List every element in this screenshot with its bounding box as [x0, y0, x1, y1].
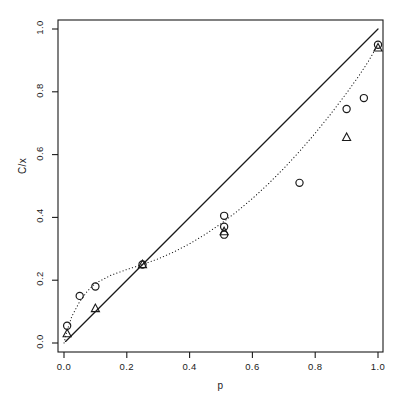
x-axis-title: p	[218, 380, 224, 391]
data-point-circles	[343, 105, 350, 112]
curve-layer	[64, 29, 378, 343]
data-point-triangles	[343, 133, 351, 141]
y-tick-label: 1.0	[34, 17, 45, 39]
y-tick-label: 0.6	[34, 142, 45, 164]
data-point-circles	[221, 212, 228, 219]
fitted-curve	[64, 45, 378, 343]
x-tick-label: 0.0	[57, 361, 71, 372]
y-tick-label: 0.2	[34, 268, 45, 290]
chart-figure: 0.00.20.40.60.81.0 0.00.20.40.60.81.0 p …	[0, 0, 408, 412]
identity-line	[66, 29, 378, 341]
plot-canvas	[0, 0, 408, 412]
data-point-triangles	[63, 329, 71, 337]
data-point-layer	[63, 41, 382, 337]
y-tick-label: 0.8	[34, 79, 45, 101]
x-tick-label: 0.6	[245, 361, 259, 372]
x-tick-label: 1.0	[371, 361, 385, 372]
data-point-circles	[92, 283, 99, 290]
y-tick-label: 0.4	[34, 205, 45, 227]
y-axis-title: C/x	[17, 158, 28, 174]
x-tick-label: 0.2	[120, 361, 134, 372]
y-tick-label: 0.0	[34, 331, 45, 353]
data-point-circles	[296, 179, 303, 186]
x-tick-label: 0.4	[182, 361, 196, 372]
data-point-triangles	[91, 304, 99, 312]
x-tick-label: 0.8	[308, 361, 322, 372]
data-point-circles	[360, 94, 367, 101]
data-point-circles	[76, 292, 83, 299]
